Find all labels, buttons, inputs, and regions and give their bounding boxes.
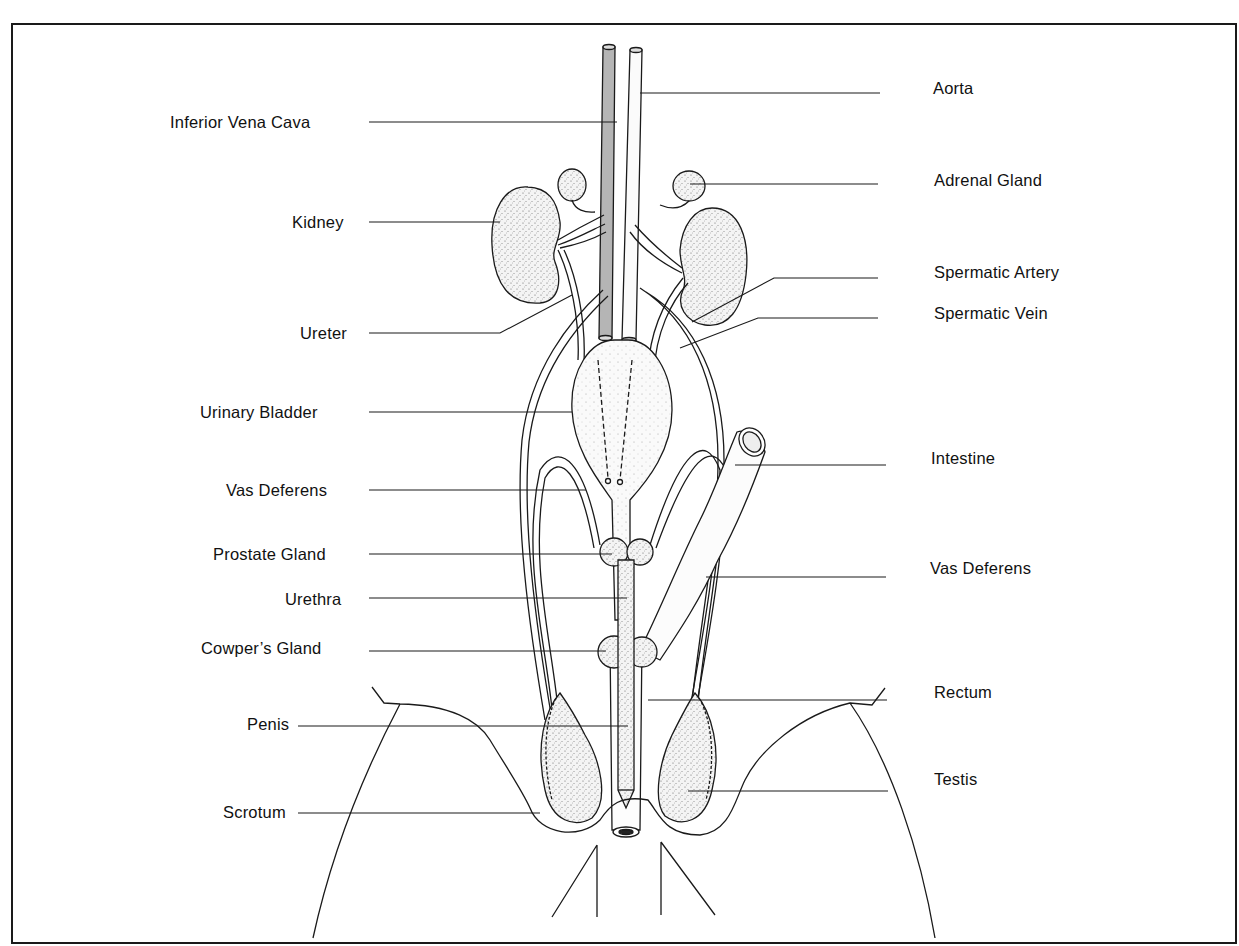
label-vas-deferens-right: Vas Deferens bbox=[930, 558, 1031, 578]
label-aorta: Aorta bbox=[933, 78, 973, 98]
left-kidney-shape bbox=[492, 187, 560, 303]
label-adrenal-gland: Adrenal Gland bbox=[934, 170, 1042, 190]
penis-shape bbox=[618, 560, 634, 808]
right-kidney-shape bbox=[680, 208, 747, 325]
label-vas-deferens-left: Vas Deferens bbox=[226, 480, 327, 500]
label-spermatic-artery: Spermatic Artery bbox=[934, 262, 1059, 282]
aorta-shape bbox=[622, 48, 642, 343]
label-spermatic-vein: Spermatic Vein bbox=[934, 303, 1048, 323]
label-kidney: Kidney bbox=[292, 212, 344, 232]
label-rectum: Rectum bbox=[934, 682, 992, 702]
label-testis: Testis bbox=[934, 769, 977, 789]
label-penis: Penis bbox=[247, 714, 289, 734]
label-ureter: Ureter bbox=[300, 323, 347, 343]
right-testis-shape bbox=[658, 693, 716, 822]
label-cowpers-gland: Cowper’s Gland bbox=[201, 638, 322, 658]
right-adrenal-shape bbox=[673, 171, 705, 201]
label-prostate-gland: Prostate Gland bbox=[213, 544, 326, 564]
anatomy-illustration bbox=[0, 0, 1239, 946]
label-urethra: Urethra bbox=[285, 589, 341, 609]
label-urinary-bladder: Urinary Bladder bbox=[200, 402, 318, 422]
left-adrenal-shape bbox=[558, 169, 586, 201]
label-intestine: Intestine bbox=[931, 448, 995, 468]
label-scrotum: Scrotum bbox=[223, 802, 286, 822]
label-inferior-vena-cava: Inferior Vena Cava bbox=[170, 112, 310, 132]
